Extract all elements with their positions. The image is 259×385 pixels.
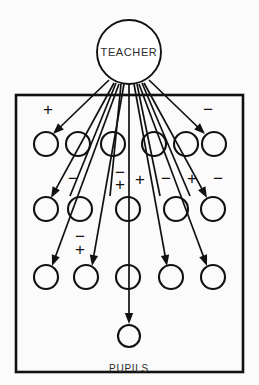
arrows-layer xyxy=(51,80,207,324)
pupil-node xyxy=(118,325,140,347)
pupil-node xyxy=(34,197,58,221)
arrow-head xyxy=(90,254,98,266)
influence-arrow xyxy=(52,84,119,266)
sign-top-left: + xyxy=(43,100,53,119)
pupil-node xyxy=(34,132,58,156)
sign-row2-f: − xyxy=(213,169,223,188)
teacher-label: TEACHER xyxy=(101,46,158,58)
sign-row2-c: + xyxy=(135,170,145,189)
teacher-pupils-diagram: TEACHER +−−−++−+−−+ PUPILS xyxy=(0,0,259,385)
pupil-node xyxy=(201,265,225,289)
sign-row2-e: + xyxy=(187,169,197,188)
sign-row2-b-plus: + xyxy=(115,175,125,194)
arrow-shaft xyxy=(149,80,199,128)
pupil-node xyxy=(164,197,188,221)
pupils-caption: PUPILS xyxy=(109,363,149,374)
pupil-node xyxy=(159,265,183,289)
sign-row2-d: − xyxy=(161,169,171,188)
pupil-node xyxy=(116,197,140,221)
pupil-node xyxy=(66,132,90,156)
pupil-node xyxy=(74,265,98,289)
arrow-head xyxy=(52,254,60,266)
arrow-head xyxy=(199,254,207,266)
pupil-node xyxy=(201,197,225,221)
sign-row2-a: − xyxy=(68,169,78,188)
pupil-node xyxy=(202,132,226,156)
diagram-canvas: TEACHER +−−−++−+−−+ PUPILS xyxy=(0,0,259,385)
arrow-head xyxy=(161,254,169,266)
pupil-node xyxy=(68,197,92,221)
sign-row3-a-plus: + xyxy=(75,240,85,259)
pupil-node xyxy=(34,265,58,289)
arrow-head xyxy=(125,313,133,324)
sign-top-right: − xyxy=(203,100,213,119)
arrow-head xyxy=(51,186,60,198)
arrow-head xyxy=(198,186,207,198)
pupil-node xyxy=(116,265,140,289)
arrow-shaft xyxy=(55,83,114,190)
